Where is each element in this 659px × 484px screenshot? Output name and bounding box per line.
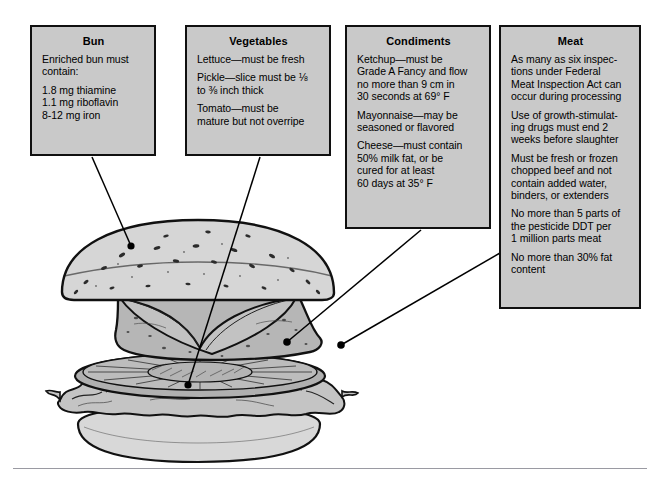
callout-text-meat-p3: Must be fresh or frozen chopped beef and… [511,152,630,202]
cond-line-9: cured for at least [357,164,434,176]
callout-text-cond-p2: Mayonnaise—may be seasoned or flavored [357,109,480,134]
meat-line-12: No more than 5 parts of [511,207,620,219]
callout-title-condiments: Condiments [357,35,480,48]
callout-box-vegetables[interactable]: Vegetables Lettuce—must be fresh Pickle—… [185,25,331,156]
callout-text-meat-p1: As many as six inspec- tions under Feder… [511,53,630,103]
meat-line-11: binders, or extenders [511,189,609,201]
bun-line-1: Enriched bun must [42,53,129,65]
callout-box-meat[interactable]: Meat As many as six inspec- tions under … [499,25,641,309]
veg-line-3: to ⅜ inch thick [197,84,263,96]
meat-line-14: 1 million parts meat [511,232,601,244]
callout-text-bun-p2: 1.8 mg thiamine 1.1 mg riboflavin 8-12 m… [42,84,145,121]
cond-line-6: seasoned or flavored [357,121,454,133]
bun-line-3: 1.8 mg thiamine [42,84,116,96]
meat-line-3: Meat Inspection Act can [511,78,621,90]
cond-line-2: Grade A Fancy and flow [357,65,467,77]
veg-line-1: Lettuce—must be fresh [197,53,305,65]
meat-line-8: Must be fresh or frozen [511,152,618,164]
meat-line-10: contain added water, [511,177,607,189]
cond-line-10: 60 days at 35° F [357,177,433,189]
callout-title-meat: Meat [511,35,630,48]
bun-line-4: 1.1 mg riboflavin [42,96,118,108]
meat-line-1: As many as six inspec- [511,53,617,65]
callout-text-cond-p3: Cheese—must contain 50% milk fat, or be … [357,139,480,189]
callout-title-vegetables: Vegetables [197,35,320,48]
meat-line-2: tions under Federal [511,65,601,77]
meat-line-9: chopped beef and not [511,164,612,176]
veg-line-4: Tomato—must be [197,102,279,114]
meat-line-15: No more than 30% fat [511,251,612,263]
callout-text-meat-p5: No more than 30% fat content [511,251,630,276]
cond-line-5: Mayonnaise—may be [357,109,458,121]
callout-text-meat-p4: No more than 5 parts of the pesticide DD… [511,207,630,244]
callout-box-bun[interactable]: Bun Enriched bun must contain: 1.8 mg th… [30,25,156,156]
cond-line-8: 50% milk fat, or be [357,152,443,164]
meat-line-4: occur during processing [511,90,621,102]
leader-dot-condiments [283,338,291,346]
leader-dot-meat [337,341,345,349]
bun-line-5: 8-12 mg iron [42,109,100,121]
leader-line-meat [341,253,500,345]
callout-title-bun: Bun [42,35,145,48]
meat-line-16: content [511,263,545,275]
meat-line-7: weeks before slaughter [511,133,618,145]
bun-line-2: contain: [42,65,78,77]
bottom-horizontal-rule [13,468,647,469]
top-bun-group [62,220,334,300]
callout-box-condiments[interactable]: Condiments Ketchup—must be Grade A Fancy… [345,25,491,229]
cond-line-4: 30 seconds at 69° F [357,90,450,102]
callout-text-meat-p2: Use of growth-stimulat- ing drugs must e… [511,109,630,146]
veg-line-5: mature but not overripe [197,115,304,127]
veg-line-2: Pickle—slice must be ⅛ [197,71,307,83]
callout-text-bun-p1: Enriched bun must contain: [42,53,145,78]
cond-line-3: no more than 9 cm in [357,78,455,90]
meat-line-5: Use of growth-stimulat- [511,109,618,121]
leader-dot-bun [127,242,134,249]
cond-line-7: Cheese—must contain [357,139,462,151]
callout-text-veg-p1: Lettuce—must be fresh [197,53,320,65]
callout-text-veg-p2: Pickle—slice must be ⅛ to ⅜ inch thick [197,71,320,96]
meat-line-13: the pesticide DDT per [511,220,611,232]
figure-page: Bun Enriched bun must contain: 1.8 mg th… [0,0,659,484]
callout-text-veg-p3: Tomato—must be mature but not overripe [197,102,320,127]
meat-line-6: ing drugs must end 2 [511,121,608,133]
callout-text-cond-p1: Ketchup—must be Grade A Fancy and flow n… [357,53,480,103]
cond-line-1: Ketchup—must be [357,53,443,65]
leader-dot-vegetables [184,381,191,388]
